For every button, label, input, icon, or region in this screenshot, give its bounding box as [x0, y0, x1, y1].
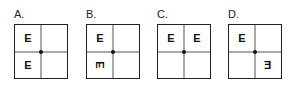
option-label: B. — [86, 8, 96, 20]
grid-box: E E — [14, 24, 68, 79]
option-d[interactable]: D. E E — [228, 0, 300, 86]
option-label: A. — [14, 8, 24, 20]
option-a[interactable]: A. E E — [14, 0, 86, 86]
letter-bottom-left-rotated: E — [94, 61, 106, 68]
grid-box: E E — [157, 24, 211, 79]
grid-box: E E — [228, 24, 282, 79]
letter-top-left: E — [24, 32, 31, 44]
option-b[interactable]: B. E E — [86, 0, 158, 86]
letter-top-left: E — [167, 32, 174, 44]
option-label: D. — [228, 8, 239, 20]
grid-box: E E — [86, 24, 140, 79]
letter-top-right: E — [193, 32, 200, 44]
letter-top-left: E — [96, 32, 103, 44]
letter-bottom-left: E — [24, 59, 31, 71]
letter-bottom-right-rotated: E — [264, 59, 271, 71]
option-c[interactable]: C. E E — [157, 0, 229, 86]
option-label: C. — [157, 8, 168, 20]
letter-top-left: E — [238, 32, 245, 44]
